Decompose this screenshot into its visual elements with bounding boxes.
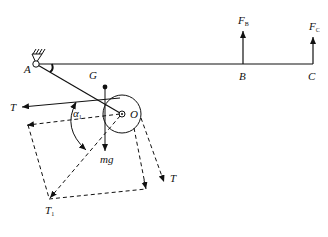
force-parallelogram	[28, 114, 146, 199]
label-alpha1: α1	[73, 107, 82, 120]
label-C: C	[308, 70, 316, 82]
label-FB: FB	[237, 14, 249, 27]
angle-mark-A	[50, 64, 53, 72]
label-T-left: T	[10, 101, 17, 113]
label-FC: FC	[308, 20, 320, 33]
label-O: O	[130, 108, 138, 120]
pivot-A	[33, 61, 39, 67]
label-G: G	[89, 69, 97, 81]
label-T-right: T	[170, 172, 177, 184]
label-A: A	[23, 63, 31, 75]
label-T1: T1	[45, 204, 54, 217]
fixed-support-icon	[32, 49, 45, 63]
label-B: B	[239, 70, 246, 82]
rod-AO	[36, 64, 120, 113]
label-mg: mg	[100, 153, 114, 165]
force-T-right	[141, 118, 164, 182]
mechanics-diagram: A G O B C FB FC T T mg T1 α1	[0, 0, 328, 237]
